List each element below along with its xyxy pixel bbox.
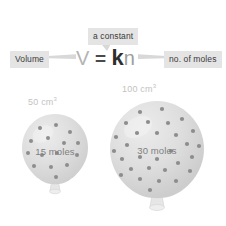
volume-caption-large-unit: cm — [140, 84, 152, 94]
balloon-small-moles-label: 15 moles — [18, 146, 92, 158]
volume-caption-small-unit: cm — [41, 97, 53, 107]
connector-volume-arrow — [48, 53, 78, 63]
callout-volume: Volume — [10, 51, 49, 68]
callout-no-of-moles: no. of moles — [164, 51, 222, 68]
equation-symbol-v: V — [76, 47, 89, 69]
equation-symbol-k: k — [112, 45, 124, 70]
volume-caption-small-balloon: 50 cm3 — [28, 97, 57, 108]
callout-a-constant: a constant — [88, 28, 138, 45]
volume-caption-large-balloon: 100 cm3 — [122, 84, 156, 95]
diagram-canvas: a constant Volume no. of moles V = kn 50… — [0, 0, 226, 226]
balloon-large-graphic — [104, 99, 210, 221]
balloon-small: 15 moles — [18, 112, 92, 206]
connector-moles-arrow — [136, 53, 166, 63]
balloon-large: 30 moles — [104, 99, 210, 225]
volume-caption-small-exponent: 3 — [54, 96, 58, 102]
volume-caption-small-value: 50 — [28, 97, 38, 107]
balloon-large-moles-label: 30 moles — [104, 145, 210, 157]
equation-symbol-n: n — [124, 47, 135, 69]
volume-caption-large-exponent: 3 — [153, 83, 157, 89]
equation-symbol-equals: = — [95, 48, 106, 69]
equation-v-equals-kn: V = kn — [76, 46, 135, 71]
volume-caption-large-value: 100 — [122, 84, 138, 94]
